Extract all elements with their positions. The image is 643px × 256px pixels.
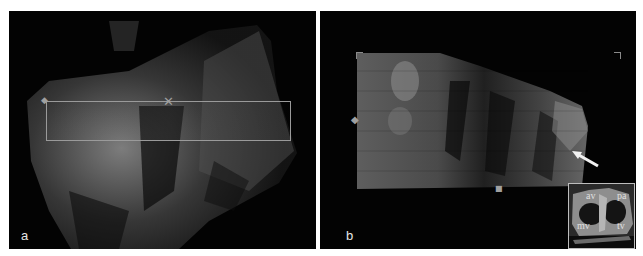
inset-image: av pa mv tv bbox=[568, 183, 635, 249]
panel-b: ◆ ■ b av pa mv tv bbox=[320, 11, 636, 249]
square-marker-icon[interactable]: ■ bbox=[495, 185, 503, 193]
inset-label-pa: pa bbox=[617, 190, 626, 201]
inset-label-tv: tv bbox=[617, 220, 625, 231]
panel-label-a: a bbox=[21, 228, 28, 243]
side-tick-mark bbox=[0, 90, 7, 92]
corner-bracket-tl bbox=[356, 52, 363, 59]
panel-label-b: b bbox=[346, 228, 353, 243]
corner-bracket-tr bbox=[614, 52, 621, 59]
inset-label-mv: mv bbox=[577, 220, 590, 231]
inset-label-av: av bbox=[586, 190, 595, 201]
panel-a: ✕ ◆ a bbox=[9, 11, 316, 249]
crosshair-x-icon[interactable]: ✕ bbox=[163, 95, 174, 108]
diamond-marker-icon[interactable]: ◆ bbox=[351, 115, 359, 125]
diamond-marker-icon[interactable]: ◆ bbox=[41, 96, 48, 105]
